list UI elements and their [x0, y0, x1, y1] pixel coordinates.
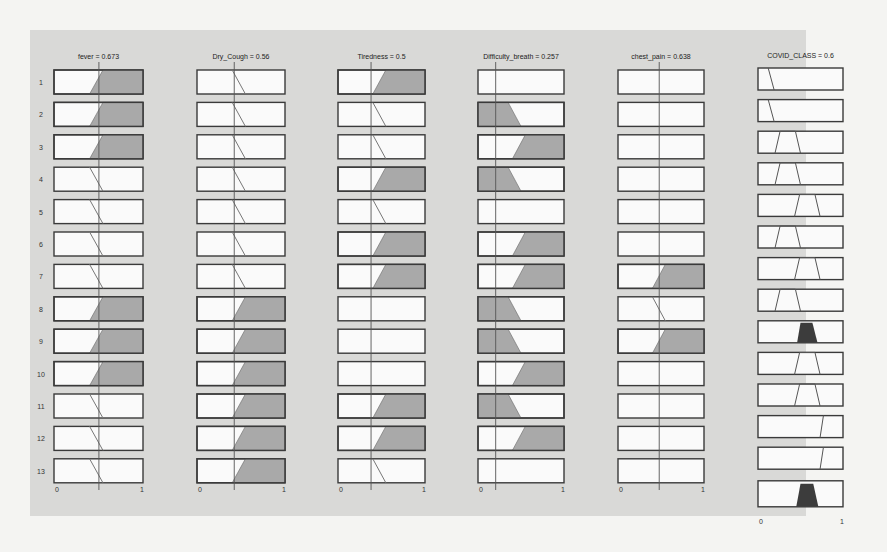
rule-9-tiredness-mf[interactable]: [338, 329, 425, 353]
rule-3-covid-class-mf[interactable]: [758, 131, 843, 153]
rule-10-tiredness-mf[interactable]: [338, 362, 425, 386]
rule-number: 13: [37, 468, 45, 475]
rule-6-chest_pain-mf[interactable]: [618, 232, 704, 256]
x-tick-1: 1: [561, 486, 565, 493]
rule-number: 12: [37, 435, 45, 442]
rule-3-difficulty_breath-mf[interactable]: [478, 135, 564, 159]
rule-6-difficulty_breath-mf[interactable]: [478, 232, 564, 256]
rule-12-covid-class-mf[interactable]: [758, 416, 843, 438]
rule-6-covid-class-mf[interactable]: [758, 226, 843, 248]
input-title-tiredness: Tiredness = 0.5: [357, 53, 405, 60]
rule-10-dry_cough-mf[interactable]: [197, 362, 285, 386]
rule-11-tiredness-mf[interactable]: [338, 394, 425, 418]
rule-2-chest_pain-mf[interactable]: [618, 102, 704, 126]
rule-3-tiredness-mf[interactable]: [338, 135, 425, 159]
rule-2-dry_cough-mf[interactable]: [197, 102, 285, 126]
rule-number: 3: [39, 144, 43, 151]
x-tick-0: 0: [339, 486, 343, 493]
rule-3-dry_cough-mf[interactable]: [197, 135, 285, 159]
rule-7-difficulty_breath-mf[interactable]: [478, 264, 564, 288]
rule-13-chest_pain-mf[interactable]: [618, 459, 704, 483]
input-title-chest_pain: chest_pain = 0.638: [631, 53, 690, 61]
rule-number: 1: [39, 79, 43, 86]
rule-4-dry_cough-mf[interactable]: [197, 167, 285, 191]
rule-11-chest_pain-mf[interactable]: [618, 394, 704, 418]
input-title-difficulty_breath: Difficulty_breath = 0.257: [483, 53, 559, 61]
output-x-tick-1: 1: [840, 518, 844, 525]
rule-number: 10: [37, 371, 45, 378]
rule-10-difficulty_breath-mf[interactable]: [478, 362, 564, 386]
rule-4-chest_pain-mf[interactable]: [618, 167, 704, 191]
rule-5-covid-class-mf[interactable]: [758, 194, 843, 216]
rule-2-tiredness-mf[interactable]: [338, 102, 425, 126]
rule-12-difficulty_breath-mf[interactable]: [478, 426, 564, 450]
rule-number: 9: [39, 338, 43, 345]
x-tick-1: 1: [422, 486, 426, 493]
rule-8-difficulty_breath-mf[interactable]: [478, 297, 564, 321]
rule-8-dry_cough-mf[interactable]: [197, 297, 285, 321]
fuzzy-rule-viewer-chart: fever = 0.673Dry_Cough = 0.56Tiredness =…: [0, 0, 887, 552]
covid-class-aggregate-output: [758, 481, 843, 507]
rule-4-difficulty_breath-mf[interactable]: [478, 167, 564, 191]
rule-number: 7: [39, 273, 43, 280]
rule-9-dry_cough-mf[interactable]: [197, 329, 285, 353]
rule-number: 5: [39, 209, 43, 216]
rule-13-tiredness-mf[interactable]: [338, 459, 425, 483]
rule-number: 6: [39, 241, 43, 248]
rule-number: 11: [37, 403, 44, 410]
rule-13-covid-class-mf[interactable]: [758, 447, 843, 469]
rule-8-covid-class-mf[interactable]: [758, 289, 843, 311]
rule-5-dry_cough-mf[interactable]: [197, 200, 285, 224]
x-tick-1: 1: [701, 486, 705, 493]
output-x-tick-0: 0: [759, 518, 763, 525]
rule-12-chest_pain-mf[interactable]: [618, 426, 704, 450]
rule-1-dry_cough-mf[interactable]: [197, 70, 285, 94]
rule-number: 4: [39, 176, 43, 183]
rule-2-covid-class-mf[interactable]: [758, 100, 843, 122]
x-tick-0: 0: [619, 486, 623, 493]
rule-4-covid-class-mf[interactable]: [758, 163, 843, 185]
rule-7-dry_cough-mf[interactable]: [197, 264, 285, 288]
rule-1-difficulty_breath-mf[interactable]: [478, 70, 564, 94]
x-tick-0: 0: [55, 486, 59, 493]
rule-8-chest_pain-mf[interactable]: [618, 297, 704, 321]
x-tick-0: 0: [198, 486, 202, 493]
rule-9-difficulty_breath-mf[interactable]: [478, 329, 564, 353]
rule-9-covid-class-mf[interactable]: [758, 321, 843, 343]
rule-1-tiredness-mf[interactable]: [338, 70, 425, 94]
rule-10-covid-class-mf[interactable]: [758, 352, 843, 374]
input-title-dry_cough: Dry_Cough = 0.56: [212, 53, 269, 61]
rule-6-tiredness-mf[interactable]: [338, 232, 425, 256]
rule-7-covid-class-mf[interactable]: [758, 258, 843, 280]
output-title: COVID_CLASS = 0.6: [767, 52, 834, 60]
rule-1-chest_pain-mf[interactable]: [618, 70, 704, 94]
rule-7-tiredness-mf[interactable]: [338, 264, 425, 288]
x-tick-1: 1: [140, 486, 144, 493]
rule-4-tiredness-mf[interactable]: [338, 167, 425, 191]
rule-11-dry_cough-mf[interactable]: [197, 394, 285, 418]
rule-5-chest_pain-mf[interactable]: [618, 200, 704, 224]
input-title-fever: fever = 0.673: [78, 53, 119, 60]
rule-number: 2: [39, 111, 43, 118]
rule-8-tiredness-mf[interactable]: [338, 297, 425, 321]
rule-5-tiredness-mf[interactable]: [338, 200, 425, 224]
rule-5-difficulty_breath-mf[interactable]: [478, 200, 564, 224]
rule-2-difficulty_breath-mf[interactable]: [478, 102, 564, 126]
rule-6-dry_cough-mf[interactable]: [197, 232, 285, 256]
rule-10-chest_pain-mf[interactable]: [618, 362, 704, 386]
rule-13-difficulty_breath-mf[interactable]: [478, 459, 564, 483]
rule-7-chest_pain-mf[interactable]: [618, 264, 704, 288]
rule-1-covid-class-mf[interactable]: [758, 68, 843, 90]
x-tick-0: 0: [479, 486, 483, 493]
rule-13-dry_cough-mf[interactable]: [197, 459, 285, 483]
rule-11-difficulty_breath-mf[interactable]: [478, 394, 564, 418]
rule-12-tiredness-mf[interactable]: [338, 426, 425, 450]
rule-12-dry_cough-mf[interactable]: [197, 426, 285, 450]
rule-number: 8: [39, 306, 43, 313]
x-tick-1: 1: [282, 486, 286, 493]
rule-3-chest_pain-mf[interactable]: [618, 135, 704, 159]
rule-9-chest_pain-mf[interactable]: [618, 329, 704, 353]
rule-11-covid-class-mf[interactable]: [758, 384, 843, 406]
